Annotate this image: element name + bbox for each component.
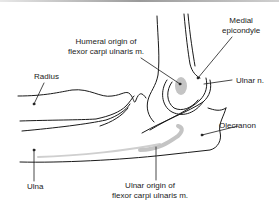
label-olecranon-text: Olecranon [219, 121, 256, 131]
label-humeral-origin: Humeral origin of flexor carpi ulnaris m… [68, 37, 144, 56]
label-ulnar-origin-line2: flexor carpi ulnaris m. [112, 191, 188, 201]
label-medial-epicondyle-line2: epicondyle [222, 26, 260, 36]
label-medial-epicondyle-line1: Medial [222, 16, 260, 26]
radius-outline [18, 90, 146, 131]
ulna-outline [20, 108, 226, 162]
label-radius: Radius [34, 72, 59, 82]
label-ulnar-nerve: Ulnar n. [236, 76, 264, 86]
label-ulna-text: Ulna [27, 182, 43, 192]
label-humeral-origin-line1: Humeral origin of [68, 37, 144, 47]
leader-lines [33, 37, 238, 181]
label-radius-text: Radius [34, 72, 59, 82]
label-ulna: Ulna [27, 182, 43, 192]
label-ulnar-origin-line1: Ulnar origin of [112, 181, 188, 191]
label-medial-epicondyle: Medial epicondyle [222, 16, 260, 35]
label-olecranon: Olecranon [219, 121, 256, 131]
label-ulnar-origin: Ulnar origin of flexor carpi ulnaris m. [112, 181, 188, 200]
humeral-origin-shading [175, 77, 187, 95]
label-ulnar-nerve-text: Ulnar n. [236, 76, 264, 86]
label-humeral-origin-line2: flexor carpi ulnaris m. [68, 47, 144, 57]
